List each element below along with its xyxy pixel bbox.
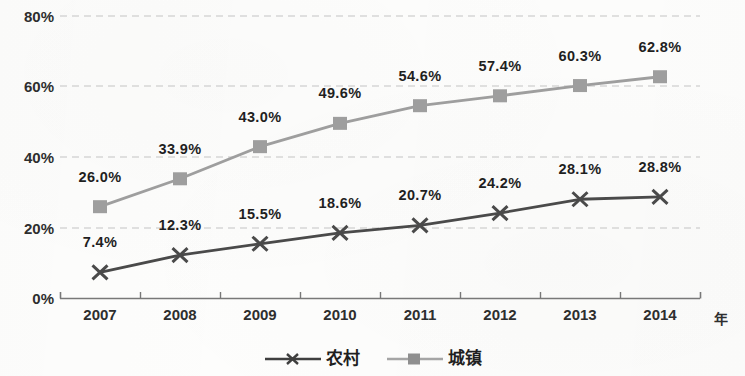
data-point-label: 28.1% <box>558 161 601 177</box>
legend-label-rural: 农村 <box>326 350 360 367</box>
data-point-label: 18.6% <box>318 195 361 211</box>
x-tick-label: 2014 <box>643 306 676 323</box>
data-point-label: 62.8% <box>638 39 681 55</box>
x-axis-title: 年 <box>714 308 728 328</box>
data-point-label: 54.6% <box>398 68 441 84</box>
data-point-label: 20.7% <box>398 187 441 203</box>
x-marker-icon <box>264 351 322 367</box>
square-marker-icon <box>386 351 444 367</box>
data-point-label: 12.3% <box>158 217 201 233</box>
data-point-square-marker <box>653 70 667 83</box>
legend-label-urban: 城镇 <box>448 350 482 367</box>
data-point-label: 57.4% <box>478 58 521 74</box>
data-point-label: 49.6% <box>318 85 361 101</box>
x-tick-label: 2010 <box>323 306 356 323</box>
data-point-label: 43.0% <box>238 109 281 125</box>
x-tick-label: 2009 <box>243 306 276 323</box>
x-tick-label: 2011 <box>404 306 437 323</box>
x-tick-label: 2013 <box>563 306 596 323</box>
data-point-label: 24.2% <box>478 175 521 191</box>
x-tick-label: 2007 <box>83 306 116 323</box>
data-point-label: 28.8% <box>638 159 681 175</box>
data-point-label: 7.4% <box>83 234 118 250</box>
data-point-label: 15.5% <box>238 206 281 222</box>
x-tick-label: 2012 <box>483 306 516 323</box>
data-point-square-marker <box>573 79 587 92</box>
data-point-square-marker <box>413 99 427 112</box>
data-point-square-marker <box>93 200 107 213</box>
data-point-label: 60.3% <box>558 48 601 64</box>
x-tick-label: 2008 <box>163 306 196 323</box>
gridlines <box>60 16 700 228</box>
data-point-square-marker <box>173 172 187 185</box>
data-point-label: 26.0% <box>78 169 121 185</box>
data-point-square-marker <box>253 140 267 153</box>
line-chart: 80% 60% 40% 20% 0% 26.0%33.9%43.0%4 <box>0 0 745 376</box>
series-line-rural <box>93 190 668 280</box>
series-path <box>100 197 660 273</box>
x-axis-line <box>60 292 701 299</box>
data-point-square-marker <box>333 117 347 130</box>
chart-legend: 农村 城镇 <box>0 350 745 367</box>
data-point-label: 33.9% <box>158 141 201 157</box>
legend-item-urban[interactable]: 城镇 <box>386 350 482 367</box>
legend-item-rural[interactable]: 农村 <box>264 350 360 367</box>
data-point-square-marker <box>493 89 507 102</box>
